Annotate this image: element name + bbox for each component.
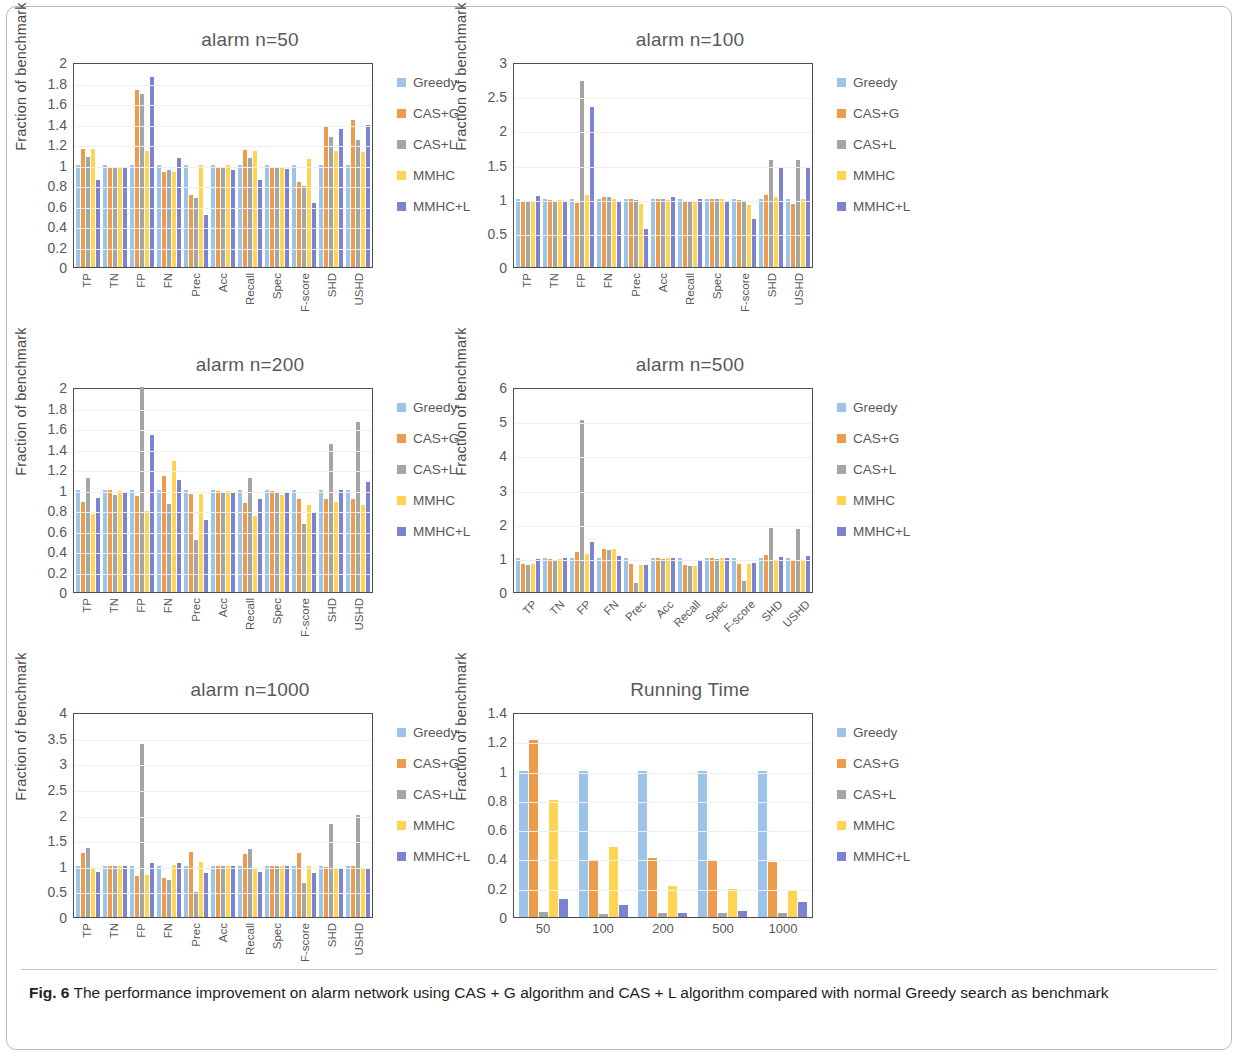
bar-group xyxy=(157,64,181,267)
legend-item: Greedy xyxy=(837,67,957,98)
y-tick-label: 0.2 xyxy=(48,565,67,581)
bar xyxy=(81,502,85,592)
x-tick-label: Acc xyxy=(653,598,675,620)
y-tick-label: 0 xyxy=(499,910,507,926)
gridline xyxy=(74,105,372,106)
y-tick-label: 3 xyxy=(59,756,67,772)
bar xyxy=(231,866,235,917)
bar xyxy=(167,170,171,267)
bar xyxy=(558,559,562,592)
y-tick-label: 1.6 xyxy=(48,421,67,437)
bar xyxy=(130,866,134,917)
bar-group xyxy=(516,64,540,267)
bar xyxy=(521,564,525,592)
gridline xyxy=(74,126,372,127)
y-tick-label: 1.8 xyxy=(48,76,67,92)
y-axis-ticks: 00.20.40.60.811.21.41.61.82 xyxy=(27,63,71,268)
gridline xyxy=(514,423,812,424)
x-tick-label: TP xyxy=(81,598,93,613)
bar xyxy=(536,559,540,592)
bar-group xyxy=(698,714,747,917)
bar xyxy=(184,490,188,593)
bar xyxy=(270,168,274,267)
gridline xyxy=(74,765,372,766)
bar xyxy=(189,195,193,267)
bar xyxy=(270,866,274,917)
bar xyxy=(747,205,751,267)
x-tick-label: Recall xyxy=(244,273,256,305)
bar xyxy=(253,151,257,267)
bar xyxy=(720,558,724,592)
x-tick-label: TN xyxy=(547,598,566,617)
y-tick-label: 0.6 xyxy=(48,199,67,215)
legend-item: MMHC xyxy=(837,810,957,841)
bar xyxy=(199,165,203,268)
bar xyxy=(243,503,247,592)
gridline xyxy=(514,201,812,202)
legend-label: MMHC xyxy=(853,818,895,833)
y-tick-label: 3 xyxy=(499,55,507,71)
bar xyxy=(629,199,633,267)
bar xyxy=(786,558,790,592)
y-tick-label: 1.4 xyxy=(48,117,67,133)
bar xyxy=(531,564,535,592)
bar xyxy=(705,199,709,267)
bar-group xyxy=(265,714,289,917)
bar xyxy=(678,913,687,917)
x-tick-label: Prec xyxy=(630,273,642,297)
plot-box xyxy=(73,388,373,593)
bar-group xyxy=(678,389,702,592)
legend-label: MMHC xyxy=(853,493,895,508)
bar xyxy=(238,866,242,917)
bar xyxy=(553,560,557,592)
bar-group xyxy=(786,389,810,592)
bar xyxy=(145,875,149,917)
bar xyxy=(516,199,520,267)
bar xyxy=(548,559,552,592)
y-tick-label: 1 xyxy=(499,192,507,208)
y-tick-label: 0.5 xyxy=(488,226,507,242)
gridline xyxy=(74,471,372,472)
y-tick-label: 3.5 xyxy=(48,731,67,747)
legend-label: MMHC xyxy=(853,168,895,183)
x-tick-label: TN xyxy=(108,923,120,938)
bar-groups xyxy=(74,389,372,592)
y-tick-label: 5 xyxy=(499,414,507,430)
y-tick-label: 1 xyxy=(59,859,67,875)
bar xyxy=(172,865,176,917)
bar xyxy=(297,853,301,917)
bar xyxy=(634,200,638,267)
x-tick-label: FN xyxy=(162,598,174,613)
bar xyxy=(570,558,574,592)
x-tick-label: F-score xyxy=(739,273,751,312)
bar-group xyxy=(265,64,289,267)
bar xyxy=(329,137,333,267)
x-tick-label: Acc xyxy=(217,273,229,292)
bar-group xyxy=(157,389,181,592)
y-tick-label: 0.8 xyxy=(48,178,67,194)
y-tick-label: 0.8 xyxy=(48,503,67,519)
bar xyxy=(651,199,655,267)
bar xyxy=(629,564,633,592)
bar xyxy=(612,549,616,592)
bar xyxy=(302,883,306,917)
gridline xyxy=(74,85,372,86)
gridline xyxy=(74,228,372,229)
bar-group xyxy=(759,64,783,267)
bar xyxy=(759,558,763,592)
gridline xyxy=(514,890,812,891)
bar-group xyxy=(292,714,316,917)
legend-swatch-icon xyxy=(837,496,846,505)
y-tick-label: 4 xyxy=(499,448,507,464)
bar xyxy=(526,565,530,592)
x-tick-label: 1000 xyxy=(769,921,798,951)
legend-label: Greedy xyxy=(853,75,897,90)
bar xyxy=(590,542,594,592)
bar xyxy=(194,892,198,917)
legend-label: CAS+G xyxy=(853,756,899,771)
gridline xyxy=(74,187,372,188)
bar xyxy=(758,771,767,917)
bar-group xyxy=(786,64,810,267)
bar xyxy=(280,495,284,592)
x-tick-label: SHD xyxy=(326,598,338,622)
